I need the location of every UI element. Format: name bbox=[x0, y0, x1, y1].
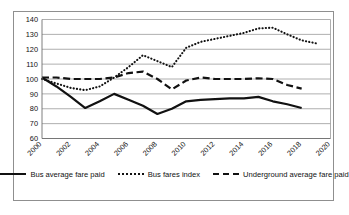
series-line bbox=[42, 28, 316, 90]
y-tick-label: 140 bbox=[26, 15, 38, 24]
x-tick-label: 2008 bbox=[141, 140, 159, 158]
x-tick-label: 2000 bbox=[25, 140, 43, 158]
series-line bbox=[42, 72, 302, 90]
x-tick-label: 2020 bbox=[314, 140, 332, 158]
x-tick-label: 2014 bbox=[227, 140, 245, 158]
y-tick-label: 80 bbox=[30, 104, 38, 113]
y-tick-label: 130 bbox=[26, 30, 38, 39]
data-series-group bbox=[42, 28, 316, 114]
legend-swatch-solid-icon bbox=[0, 171, 26, 177]
legend-item[interactable]: Bus average fare paid bbox=[0, 170, 104, 179]
chart-legend: Bus average fare paidBus fares indexUnde… bbox=[14, 162, 335, 186]
y-tick-label: 70 bbox=[30, 119, 38, 128]
legend-label: Bus fares index bbox=[148, 170, 200, 179]
x-tick-label: 2010 bbox=[170, 140, 188, 158]
y-axis-tick-labels: 60708090100110120130140 bbox=[26, 15, 38, 143]
y-tick-label: 110 bbox=[26, 60, 38, 69]
y-tick-label: 100 bbox=[26, 75, 38, 84]
x-axis-tick-labels: 2000200220042006200820102012201420162018… bbox=[25, 140, 331, 158]
legend-swatch-dashed-icon bbox=[213, 171, 239, 177]
x-tick-label: 2006 bbox=[112, 140, 130, 158]
legend-item[interactable]: Bus fares index bbox=[118, 170, 200, 179]
chart-card: 60708090100110120130140 2000200220042006… bbox=[13, 11, 334, 201]
y-tick-label: 90 bbox=[30, 90, 38, 99]
legend-label: Underground average fare paid bbox=[243, 170, 349, 179]
line-chart-svg: 60708090100110120130140 2000200220042006… bbox=[14, 12, 335, 164]
x-tick-label: 2002 bbox=[54, 140, 72, 158]
x-tick-label: 2016 bbox=[256, 140, 274, 158]
legend-label: Bus average fare paid bbox=[30, 170, 104, 179]
x-tick-label: 2004 bbox=[83, 140, 101, 158]
legend-item[interactable]: Underground average fare paid bbox=[213, 170, 349, 179]
x-tick-label: 2012 bbox=[199, 140, 217, 158]
x-tick-label: 2018 bbox=[285, 140, 303, 158]
legend-swatch-dotted-icon bbox=[118, 171, 144, 177]
y-tick-label: 120 bbox=[26, 45, 38, 54]
plot-area: 60708090100110120130140 2000200220042006… bbox=[14, 12, 335, 164]
